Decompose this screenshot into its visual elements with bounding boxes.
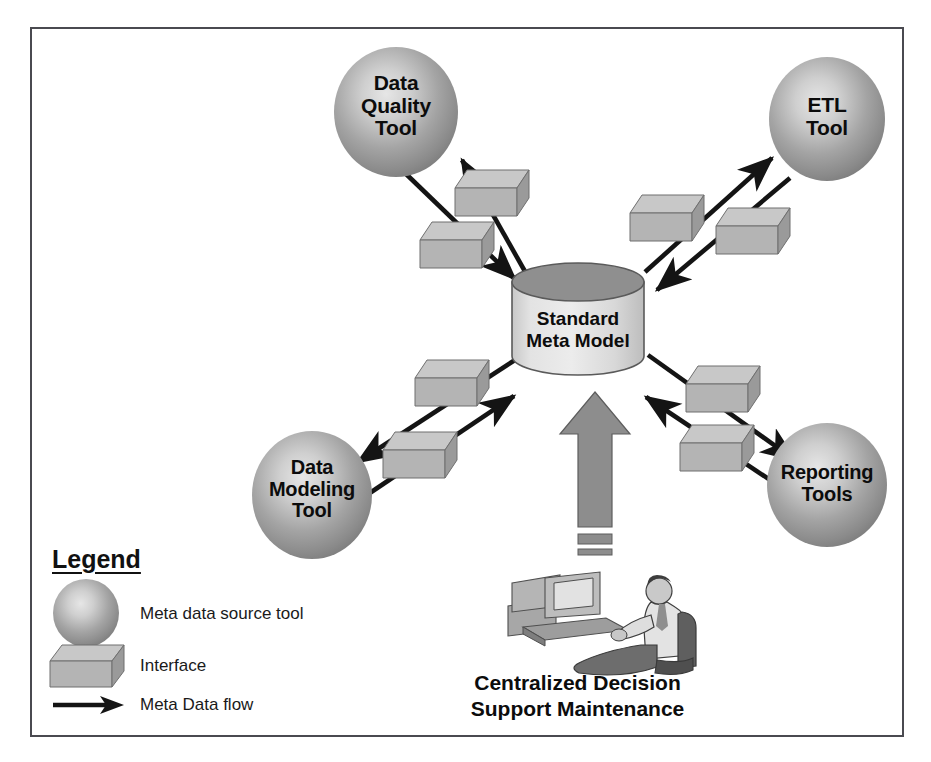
cylinder-label: Standard Meta Model bbox=[498, 308, 658, 353]
diagram-root: Data Quality Tool ETL Tool Data Modeling… bbox=[0, 0, 931, 762]
caption-line: Centralized Decision bbox=[435, 670, 720, 696]
label-line: Meta Model bbox=[498, 330, 658, 352]
legend-label-meta-data-flow: Meta Data flow bbox=[140, 695, 253, 715]
actor-caption: Centralized Decision Support Maintenance bbox=[435, 670, 720, 723]
legend-title: Legend bbox=[52, 545, 141, 574]
diagram-frame bbox=[30, 27, 904, 737]
caption-line: Support Maintenance bbox=[435, 696, 720, 722]
legend-label-interface: Interface bbox=[140, 656, 206, 676]
legend-label-meta-data-source-tool: Meta data source tool bbox=[140, 604, 303, 624]
label-line: Standard bbox=[498, 308, 658, 330]
